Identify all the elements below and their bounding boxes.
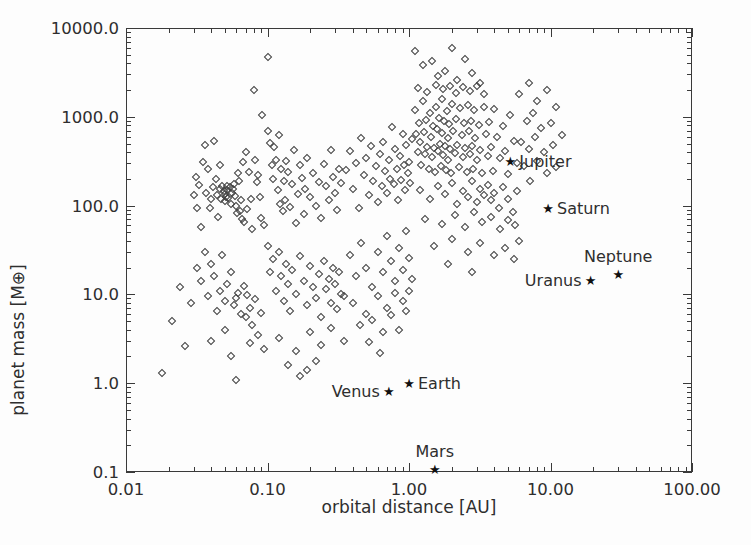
tick-mark [529,28,530,33]
tick-mark [126,463,127,472]
tick-mark [687,241,692,242]
tick-mark [683,28,692,29]
tick-mark [126,206,135,207]
tick-mark [508,28,509,33]
tick-mark [409,28,410,37]
tick-mark [126,410,131,411]
tick-mark [126,163,131,164]
tick-mark [618,467,619,472]
tick-mark [687,356,692,357]
x-tick-label: 0.01 [108,480,145,499]
y-axis-title-wrapper: planet mass [M⊕] [18,80,48,420]
tick-mark [126,330,131,331]
tick-mark [126,121,131,122]
tick-mark [403,28,404,33]
tick-mark [593,28,594,33]
tick-mark [687,152,692,153]
tick-mark [126,308,131,309]
star-marker-venus: ★ [383,384,395,397]
tick-mark [670,467,671,472]
tick-mark [194,28,195,33]
tick-mark [683,383,692,384]
tick-mark [126,303,131,304]
planet-label-neptune: Neptune [584,247,652,266]
tick-mark [661,467,662,472]
tick-mark [268,463,269,472]
tick-mark [126,472,135,473]
tick-mark [126,356,131,357]
tick-mark [403,467,404,472]
tick-mark [687,410,692,411]
tick-mark [687,445,692,446]
tick-mark [225,28,226,33]
tick-mark [519,467,520,472]
tick-mark [687,32,692,33]
tick-mark [687,137,692,138]
tick-mark [544,28,545,33]
tick-mark [687,214,692,215]
x-tick-label: 0.10 [249,480,286,499]
y-tick-label: 10000.0 [51,19,119,38]
tick-mark [126,403,131,404]
tick-mark [687,341,692,342]
tick-mark [126,210,131,211]
tick-mark [409,463,410,472]
tick-mark [126,48,131,49]
tick-mark [366,467,367,472]
tick-mark [126,419,131,420]
y-tick-label: 1000.0 [61,107,119,126]
tick-mark [335,28,336,33]
tick-mark [551,28,552,37]
tick-mark [126,117,135,118]
tick-mark [366,28,367,33]
tick-mark [261,28,262,33]
tick-mark [537,467,538,472]
tick-mark [236,467,237,472]
tick-mark [687,163,692,164]
tick-mark [254,28,255,33]
tick-mark [649,28,650,33]
tick-mark [126,90,131,91]
tick-mark [683,294,692,295]
planet-label-saturn: Saturn [557,198,610,217]
tick-mark [551,463,552,472]
tick-mark [687,430,692,431]
tick-mark [544,467,545,472]
tick-mark [519,28,520,33]
planet-label-mars: Mars [415,442,454,461]
star-marker-jupiter: ★ [504,154,516,167]
planet-label-jupiter: Jupiter [519,151,571,170]
tick-mark [236,28,237,33]
tick-mark [126,152,131,153]
tick-mark [126,42,131,43]
tick-mark [687,144,692,145]
tick-mark [126,392,131,393]
tick-mark [618,28,619,33]
tick-mark [310,28,311,33]
tick-mark [126,252,131,253]
tick-mark [692,28,693,37]
y-tick-label: 1.0 [93,374,119,393]
tick-mark [687,219,692,220]
tick-mark [126,314,131,315]
tick-mark [126,241,131,242]
tick-mark [636,467,637,472]
tick-mark [593,467,594,472]
tick-mark [126,445,131,446]
tick-mark [687,48,692,49]
tick-mark [687,63,692,64]
tick-mark [126,214,131,215]
tick-mark [687,397,692,398]
tick-mark [508,467,509,472]
tick-mark [353,28,354,33]
tick-mark [687,42,692,43]
tick-mark [126,383,135,384]
tick-mark [126,55,131,56]
tick-mark [225,467,226,472]
tick-mark [687,74,692,75]
tick-mark [687,121,692,122]
tick-mark [126,268,131,269]
x-tick-label: 10.00 [527,480,574,499]
tick-mark [126,74,131,75]
tick-mark [494,28,495,33]
